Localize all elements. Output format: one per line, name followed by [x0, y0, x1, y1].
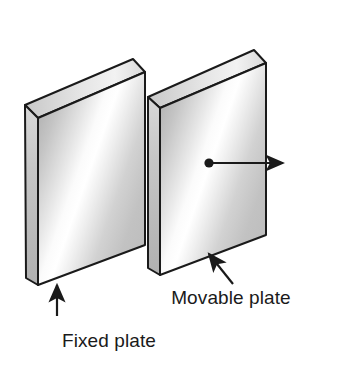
movable-plate-edge-face — [148, 97, 160, 275]
plates-diagram: Movable plate Fixed plate — [0, 0, 361, 365]
motion-origin-dot — [204, 158, 213, 167]
movable-plate-leader-arrow — [209, 254, 233, 284]
movable-plate-label: Movable plate — [171, 287, 291, 308]
fixed-plate-edge-face — [25, 105, 38, 285]
fixed-plate — [25, 59, 145, 285]
figure-container: Movable plate Fixed plate — [0, 0, 361, 365]
fixed-plate-label: Fixed plate — [62, 330, 156, 351]
movable-leader-shaft — [209, 254, 233, 284]
